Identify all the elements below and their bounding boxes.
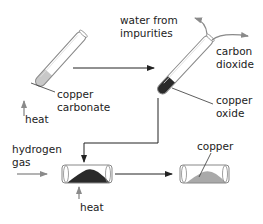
combustion-tube-copper-oxide xyxy=(62,165,112,183)
test-tube-copper-carbonate xyxy=(31,29,88,90)
carbon-dioxide-arrow xyxy=(212,35,248,40)
label-heat-1: heat xyxy=(25,113,49,126)
label-heat-2: heat xyxy=(80,201,104,214)
copper-reduction-diagram: copper carbonate heat water from impurit… xyxy=(0,0,263,224)
leader-copper-oxide xyxy=(172,88,213,104)
water-vapor-arrow xyxy=(195,18,207,34)
label-carbon-dioxide: carbon dioxide xyxy=(216,45,254,70)
label-copper: copper xyxy=(197,140,233,153)
label-hydrogen-gas: hydrogen gas xyxy=(12,143,62,168)
label-copper-carbonate: copper carbonate xyxy=(57,88,110,113)
label-copper-oxide: copper oxide xyxy=(216,94,252,119)
test-tube-copper-oxide xyxy=(154,33,215,97)
combustion-tube-copper xyxy=(180,165,229,183)
label-water-from-impurities: water from impurities xyxy=(120,14,178,39)
